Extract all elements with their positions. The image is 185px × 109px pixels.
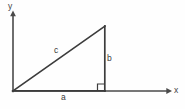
- diagram-canvas: [0, 0, 185, 109]
- right-angle-marker-icon: [98, 84, 105, 91]
- triangle-side-c: [13, 26, 105, 91]
- side-a-label: a: [61, 93, 66, 102]
- side-c-label: c: [54, 46, 58, 55]
- y-axis-label: y: [8, 2, 12, 11]
- x-axis-label: x: [174, 86, 178, 95]
- y-axis-arrow-icon: [10, 11, 16, 17]
- side-b-label: b: [107, 54, 112, 63]
- x-axis-arrow-icon: [166, 88, 172, 94]
- geometry-diagram: y x a b c: [0, 0, 185, 109]
